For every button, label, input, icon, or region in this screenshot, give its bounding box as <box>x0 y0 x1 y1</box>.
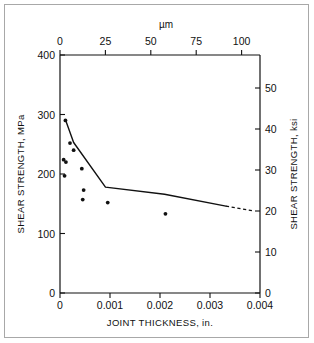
top-tick-label-0: 0 <box>57 35 63 47</box>
data-point <box>164 212 168 216</box>
right-tick-label-40: 40 <box>265 123 277 135</box>
left-tick-label-200: 200 <box>37 168 55 180</box>
data-point <box>106 201 110 205</box>
top-axis-title: µm <box>159 19 173 30</box>
bottom-axis-tick-labels: 0 0.001 0.002 0.003 0.004 <box>57 299 273 311</box>
plot-frame <box>60 55 260 293</box>
data-point <box>68 141 72 145</box>
data-point <box>64 119 68 123</box>
left-axis-tick-labels: 0 100 200 300 400 <box>37 49 55 299</box>
bottom-tick-label-0.001: 0.001 <box>97 299 123 311</box>
trend-line-extrapolation <box>226 206 253 211</box>
left-tick-label-300: 300 <box>37 109 55 121</box>
right-tick-label-20: 20 <box>265 205 277 217</box>
data-point <box>80 167 84 171</box>
top-tick-label-25: 25 <box>100 35 112 47</box>
top-axis-ticks <box>60 50 242 55</box>
chart-canvas: 0 25 50 75 100 µm 0 0.001 0.002 0.003 0.… <box>0 0 314 343</box>
trend-path-dashed <box>226 206 253 211</box>
bottom-tick-label-0.003: 0.003 <box>197 299 223 311</box>
left-axis-title: SHEAR STRENGTH, MPa <box>15 114 26 233</box>
bottom-axis-ticks <box>60 293 260 298</box>
bottom-tick-label-0.004: 0.004 <box>247 299 273 311</box>
bottom-tick-label-0.002: 0.002 <box>147 299 173 311</box>
right-axis-ticks <box>255 88 260 293</box>
data-point <box>63 174 67 178</box>
right-axis-title: SHEAR STRENGTH, ksi <box>288 118 299 229</box>
data-point <box>72 148 76 152</box>
right-tick-label-50: 50 <box>265 82 277 94</box>
top-tick-label-75: 75 <box>190 35 202 47</box>
left-tick-label-100: 100 <box>37 228 55 240</box>
trend-path-solid <box>66 121 226 206</box>
trend-line <box>66 121 226 206</box>
top-tick-label-100: 100 <box>233 35 251 47</box>
bottom-tick-label-0: 0 <box>57 299 63 311</box>
data-points <box>62 119 168 216</box>
left-tick-label-400: 400 <box>37 49 55 61</box>
data-point <box>64 160 68 164</box>
right-tick-label-10: 10 <box>265 246 277 258</box>
right-tick-label-0: 0 <box>265 287 271 299</box>
top-tick-label-50: 50 <box>145 35 157 47</box>
top-axis-tick-labels: 0 25 50 75 100 <box>57 35 250 47</box>
left-tick-label-0: 0 <box>49 287 55 299</box>
right-axis-tick-labels: 0 10 20 30 40 50 <box>265 82 277 299</box>
data-point <box>81 198 85 202</box>
bottom-axis-title: JOINT THICKNESS, in. <box>107 317 213 328</box>
right-tick-label-30: 30 <box>265 164 277 176</box>
data-point <box>82 188 86 192</box>
chart-figure: 0 25 50 75 100 µm 0 0.001 0.002 0.003 0.… <box>0 0 314 343</box>
